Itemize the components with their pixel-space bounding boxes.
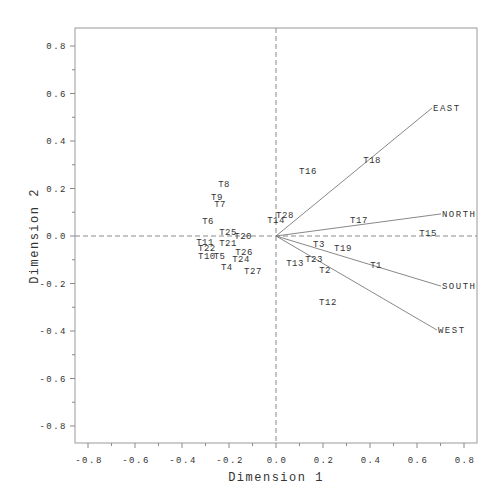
y-tick-label: -0.8: [39, 422, 67, 432]
y-tick-label: -0.6: [39, 375, 67, 385]
point-label: T1: [370, 261, 382, 271]
x-tick-label: -0.4: [169, 456, 197, 466]
point-label-layer: T1T2T3T4T5T6T7T8T9T10T11T12T13T14T15T16T…: [196, 156, 437, 308]
point-label: T15: [419, 229, 437, 239]
x-tick-label: 0.2: [314, 456, 335, 466]
y-axis-title: Dimension 2: [28, 188, 42, 284]
point-label: T6: [202, 217, 214, 227]
vector-label: EAST: [433, 104, 461, 114]
biplot-chart: -0.8-0.6-0.4-0.20.00.20.40.60.8 0.80.60.…: [0, 0, 502, 502]
x-tick-label: -0.2: [216, 456, 244, 466]
point-label: T28: [276, 211, 294, 221]
x-tick-label: 0.8: [455, 456, 476, 466]
point-label: T19: [334, 244, 352, 254]
y-axis: 0.80.60.40.20.0-0.2-0.4-0.6-0.8: [39, 42, 75, 432]
y-tick-label: 0.2: [46, 185, 67, 195]
point-label: T23: [305, 255, 323, 265]
x-tick-label: 0.4: [361, 456, 382, 466]
vector-west: [276, 236, 437, 330]
point-label: T13: [286, 259, 304, 269]
vector-layer: EASTNORTHSOUTHWEST: [276, 104, 476, 336]
y-tick-label: 0.4: [46, 137, 67, 147]
point-label: T27: [244, 267, 262, 277]
point-label: T26: [235, 248, 253, 258]
x-tick-label: -0.6: [122, 456, 150, 466]
point-label: T12: [319, 298, 337, 308]
x-tick-label: 0.6: [408, 456, 429, 466]
point-label: T9: [211, 193, 223, 203]
vector-label: WEST: [438, 326, 466, 336]
x-tick-label: -0.8: [75, 456, 103, 466]
point-label: T2: [319, 266, 331, 276]
point-label: T18: [363, 156, 381, 166]
x-axis: -0.8-0.6-0.4-0.20.00.20.40.60.8: [75, 443, 475, 466]
point-label: T4: [221, 263, 233, 273]
point-label: T3: [313, 240, 325, 250]
point-label: T25: [219, 228, 237, 238]
y-tick-label: 0.6: [46, 90, 67, 100]
point-label: T16: [299, 167, 317, 177]
y-tick-label: 0.8: [46, 42, 67, 52]
x-tick-label: 0.0: [267, 456, 288, 466]
y-tick-label: -0.4: [39, 327, 67, 337]
vector-label: SOUTH: [442, 282, 477, 292]
vector-label: NORTH: [442, 210, 477, 220]
point-label: T17: [350, 216, 368, 226]
y-tick-label: -0.2: [39, 280, 67, 290]
point-label: T8: [218, 180, 230, 190]
x-axis-title: Dimension 1: [228, 471, 324, 485]
y-tick-label: 0.0: [46, 232, 67, 242]
point-label: T22: [198, 244, 216, 254]
